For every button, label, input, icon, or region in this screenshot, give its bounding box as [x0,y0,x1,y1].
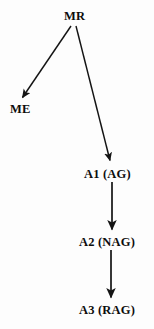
edge-mr-to-me [23,26,72,98]
node-a1: A1 (AG) [84,167,131,181]
node-a3: A3 (RAG) [79,303,135,317]
node-a2: A2 (NAG) [79,235,135,249]
diagram-canvas: MR ME A1 (AG) A2 (NAG) A3 (RAG) [0,0,154,329]
edge-mr-to-a1 [76,26,110,161]
edge-layer [0,0,154,329]
node-mr: MR [64,9,85,23]
node-me: ME [10,102,31,116]
